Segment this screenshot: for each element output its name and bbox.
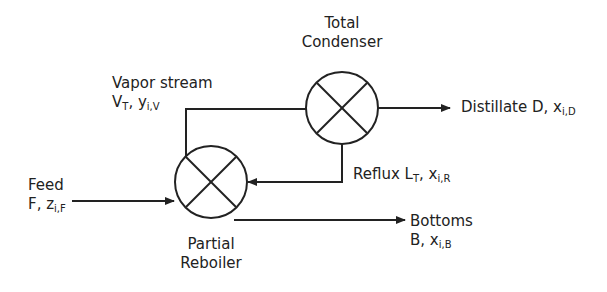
reboiler-label-line2: Reboiler (168, 254, 254, 273)
condenser-label: Total Condenser (300, 14, 384, 52)
reboiler-label: Partial Reboiler (168, 235, 254, 273)
condenser-label-line2: Condenser (300, 33, 384, 52)
bottoms-label: Bottoms B, xi,B (410, 212, 473, 254)
condenser-symbol (306, 72, 378, 144)
vapor-stream-line (186, 109, 306, 157)
bottoms-vars: B, xi,B (410, 231, 473, 254)
reflux-stream-line (248, 144, 342, 182)
vapor-stream-vars: VT, yi,V (112, 93, 213, 116)
bottoms-title: Bottoms (410, 212, 473, 231)
vapor-stream-label: Vapor stream VT, yi,V (112, 74, 213, 116)
reflux-label: Reflux LT, xi,R (353, 165, 450, 188)
feed-vars: F, zi,F (28, 195, 66, 218)
feed-label: Feed F, zi,F (28, 176, 66, 218)
distillate-label: Distillate D, xi,D (461, 98, 576, 121)
feed-title: Feed (28, 176, 66, 195)
reboiler-label-line1: Partial (168, 235, 254, 254)
vapor-stream-title: Vapor stream (112, 74, 213, 93)
condenser-label-line1: Total (300, 14, 384, 33)
